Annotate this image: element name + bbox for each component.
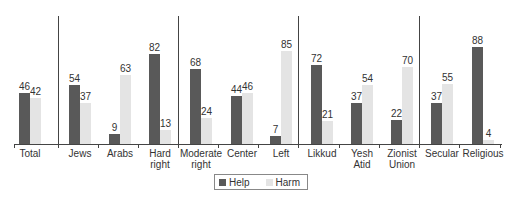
value-label: 37 <box>74 91 98 102</box>
harm-bar <box>362 85 373 144</box>
help-bar <box>231 96 242 144</box>
grouped-bar-chart: 4642Total5437Jews963Arabs8213Hardright68… <box>0 0 512 203</box>
value-label: 55 <box>436 72 460 83</box>
harm-bar <box>483 140 494 144</box>
help-bar <box>391 120 402 144</box>
value-label: 63 <box>114 63 138 74</box>
harm-bar <box>30 98 41 144</box>
category-label: Religious <box>453 148 512 159</box>
value-label: 13 <box>154 118 178 129</box>
value-label: 68 <box>184 57 208 68</box>
help-bar <box>109 134 120 144</box>
value-label: 85 <box>275 39 299 50</box>
legend: Help Harm <box>214 174 308 190</box>
help-bar <box>270 136 281 144</box>
group-divider <box>178 16 179 144</box>
legend-harm-label: Harm <box>276 177 300 188</box>
help-bar <box>19 93 30 144</box>
value-label: 4 <box>477 128 501 139</box>
value-label: 24 <box>195 106 219 117</box>
legend-help-label: Help <box>229 177 250 188</box>
value-label: 54 <box>356 73 380 84</box>
legend-help-swatch <box>219 179 226 186</box>
value-label: 54 <box>63 73 87 84</box>
harm-bar <box>281 51 292 145</box>
help-bar <box>351 103 362 144</box>
group-divider <box>58 16 59 144</box>
harm-bar <box>160 130 171 144</box>
harm-bar <box>201 118 212 144</box>
help-bar <box>149 54 160 144</box>
harm-bar <box>322 121 333 144</box>
harm-bar <box>442 84 453 145</box>
legend-harm-swatch <box>266 179 273 186</box>
harm-bar <box>242 93 253 144</box>
value-label: 88 <box>466 35 490 46</box>
value-label: 72 <box>305 53 329 64</box>
harm-bar <box>402 67 413 144</box>
group-divider <box>419 16 420 144</box>
harm-bar <box>80 103 91 144</box>
value-label: 42 <box>24 86 48 97</box>
value-label: 21 <box>316 109 340 120</box>
value-label: 46 <box>236 81 260 92</box>
value-label: 82 <box>143 42 167 53</box>
help-bar <box>311 65 322 144</box>
harm-bar <box>120 75 131 144</box>
value-label: 70 <box>396 55 420 66</box>
group-divider <box>298 16 299 144</box>
help-bar <box>431 103 442 144</box>
